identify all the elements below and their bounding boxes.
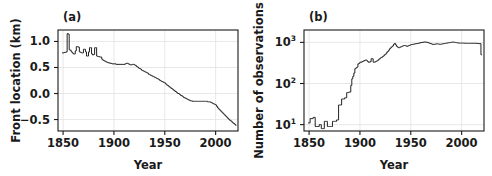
data-curve — [62, 34, 236, 126]
gridlines — [58, 30, 238, 131]
x-tick-label: 2000 — [446, 136, 478, 150]
plot-frame — [304, 30, 484, 131]
x-tick-label: 1850 — [47, 136, 79, 150]
x-tick-label: 1900 — [344, 136, 376, 150]
y-tick-label: 0.0 — [30, 87, 50, 101]
figure-container: 18501900195020001.00.50.0−0.5YearFront l… — [0, 0, 492, 176]
tick-marks — [54, 41, 216, 135]
y-tick-label: 101 — [275, 117, 296, 132]
y-tick-label: −0.5 — [20, 113, 50, 127]
panel-label: (b) — [309, 10, 328, 24]
x-tick-label: 1850 — [293, 136, 325, 150]
x-axis-title: Year — [133, 158, 163, 172]
y-axis-title: Front location (km) — [9, 18, 23, 142]
panel-label: (a) — [63, 10, 81, 24]
y-tick-label: 1.0 — [30, 34, 50, 48]
y-tick-label: 102 — [275, 76, 296, 91]
y-tick-label: 103 — [275, 34, 296, 49]
x-tick-label: 1900 — [98, 136, 130, 150]
gridlines — [304, 30, 484, 131]
data-curve — [308, 42, 482, 129]
panel-b-observations: 1850190019502000103102101YearNumber of o… — [246, 0, 492, 176]
y-axis-title: Number of observations — [252, 2, 266, 159]
x-tick-label: 1950 — [395, 136, 427, 150]
x-tick-label: 2000 — [200, 136, 232, 150]
panel-a-front-location: 18501900195020001.00.50.0−0.5YearFront l… — [0, 0, 246, 176]
y-tick-label: 0.5 — [30, 60, 50, 74]
x-axis-title: Year — [379, 158, 409, 172]
plot-frame — [58, 30, 238, 131]
x-tick-label: 1950 — [149, 136, 181, 150]
